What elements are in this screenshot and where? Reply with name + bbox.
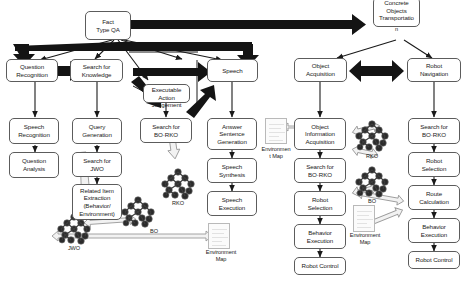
node-label-executable-action-judgement: Executable Action Judgement	[145, 86, 188, 109]
node-label-search-for-bo-rko-3: Search for BO·RKO	[410, 123, 458, 138]
node-label-speech-synthesis: Speech Synthesis	[209, 163, 255, 178]
node-label-concrete-objects-transportation: Concrete Objects Transportatio	[375, 0, 418, 22]
node-search-for-bo-rko-1[interactable]: Search for BO·RKO	[140, 118, 192, 143]
node-speech-recognition[interactable]: Speech Recognition	[9, 118, 59, 144]
diagram-canvas: Fact Type QA Concrete Objects Transporta…	[0, 0, 469, 281]
node-robot-selection-2[interactable]: Robot Selection	[294, 191, 346, 216]
node-fact-type-qa[interactable]: Fact Type QA	[85, 11, 131, 40]
node-label-robot-selection-2: Robot Selection	[296, 196, 344, 211]
node-query-generation[interactable]: Query Generation	[72, 118, 122, 144]
node-speech-synthesis[interactable]: Speech Synthesis	[207, 158, 257, 183]
node-label-fact-type-qa: Fact Type QA	[87, 18, 129, 33]
ontology-cluster-icon-rko-center	[158, 168, 198, 202]
node-speech[interactable]: Speech	[207, 59, 258, 82]
node-label-answer-sentence-generation: Answer Sentence Generation	[209, 123, 255, 146]
thick-arrow-sfk-to-speech	[133, 62, 211, 82]
thick-arrow-judgement-to-speech	[186, 85, 216, 118]
node-search-for-jwo[interactable]: Search for JWO	[72, 152, 122, 177]
node-question-analysis[interactable]: Question Analysis	[9, 152, 59, 178]
node-executable-action-judgement[interactable]: Executable Action Judgement	[143, 84, 190, 103]
node-object-acquisition[interactable]: Object Acquisition	[294, 58, 347, 82]
object-label-environment-map-right: Environment Map	[347, 232, 383, 245]
node-robot-navigation[interactable]: Robot Navigation	[407, 58, 461, 82]
node-label-question-recognition: Question Recognition	[8, 63, 56, 78]
node-label-speech: Speech	[209, 67, 256, 75]
thick-arrow-objacq-robotnav	[349, 60, 404, 82]
node-speech-execution[interactable]: Speech Execution	[207, 191, 257, 216]
node-label-robot-control-1: Robot Control	[296, 262, 344, 270]
thick-arrow-qa-to-transportation	[129, 14, 366, 35]
node-behavior-execution-2[interactable]: Behavior Execution	[408, 218, 460, 243]
ontology-cluster-icon-bo-left	[118, 196, 158, 230]
node-label-search-for-bo-rko-1: Search for BO·RKO	[142, 123, 190, 138]
node-label-behavior-execution-2: Behavior Execution	[410, 223, 458, 238]
node-answer-sentence-generation[interactable]: Answer Sentence Generation	[207, 118, 257, 150]
object-label-jwo: JWO	[55, 245, 93, 252]
node-question-recognition[interactable]: Question Recognition	[6, 59, 58, 82]
node-label-search-for-bo-rko-2: Search for BO·RKO	[296, 163, 344, 178]
object-label-environment-map-center: Environmen t Map	[259, 146, 293, 159]
object-label-rko-center: RKO	[159, 200, 197, 207]
node-label-speech-execution: Speech Execution	[209, 196, 255, 211]
node-robot-selection-1[interactable]: Robot Selection	[408, 152, 460, 177]
node-search-for-knowledge[interactable]: Search for Knowledge	[70, 59, 123, 82]
node-label-object-acquisition: Object Acquisition	[296, 62, 345, 77]
node-label-related-item-extraction: Related Item Extraction (Behavior/ Envir…	[74, 187, 120, 217]
node-label-concrete-objects-transportation-overflow: n	[373, 26, 420, 33]
node-label-question-analysis: Question Analysis	[11, 157, 57, 172]
node-label-search-for-knowledge: Search for Knowledge	[72, 63, 121, 78]
node-label-route-calculation: Route Calculation	[410, 190, 458, 205]
object-label-bo-left: BO	[135, 228, 173, 235]
object-label-rko-right: RKO	[352, 153, 392, 160]
node-search-for-bo-rko-3[interactable]: Search for BO·RKO	[408, 118, 460, 144]
ontology-cluster-icon-bo-right	[352, 166, 392, 200]
node-label-search-for-jwo: Search for JWO	[74, 157, 120, 172]
node-label-object-information-acquisition: Object Information Acquisition	[296, 123, 344, 146]
node-robot-control-2[interactable]: Robot Control	[408, 251, 460, 269]
node-route-calculation[interactable]: Route Calculation	[408, 185, 460, 210]
node-label-query-generation: Query Generation	[74, 123, 120, 138]
node-robot-control-1[interactable]: Robot Control	[294, 257, 346, 275]
ontology-cluster-icon-rko-right	[352, 120, 392, 154]
object-label-environment-map-left: Environment Map	[204, 249, 238, 262]
node-object-information-acquisition[interactable]: Object Information Acquisition	[294, 118, 346, 150]
node-search-for-bo-rko-2[interactable]: Search for BO·RKO	[294, 158, 346, 183]
node-concrete-objects-transportation[interactable]: Concrete Objects Transportatio	[373, 0, 420, 27]
node-label-robot-control-2: Robot Control	[410, 256, 458, 264]
node-label-behavior-execution-1: Behavior Execution	[296, 229, 344, 244]
node-label-robot-navigation: Robot Navigation	[409, 62, 459, 77]
node-label-robot-selection-1: Robot Selection	[410, 157, 458, 172]
node-behavior-execution-1[interactable]: Behavior Execution	[294, 224, 346, 249]
object-label-bo-right: BO	[352, 198, 392, 205]
node-label-speech-recognition: Speech Recognition	[11, 123, 57, 138]
node-related-item-extraction[interactable]: Related Item Extraction (Behavior/ Envir…	[72, 184, 122, 220]
